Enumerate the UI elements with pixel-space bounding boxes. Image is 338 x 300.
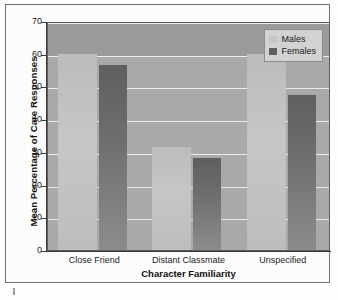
legend: Males Females [264, 29, 323, 62]
x-tick-label-distant-classmate: Distant Classmate [141, 255, 235, 269]
bar-males-unspecified [247, 54, 286, 250]
y-axis-line [46, 22, 47, 252]
y-tick-label-0: 0 [0, 246, 42, 255]
x-axis-title: Character Familiarity [47, 268, 330, 279]
bar-males-distant-classmate [152, 147, 191, 250]
legend-item-males: Males [269, 34, 316, 45]
x-tick-label-close-friend: Close Friend [47, 255, 141, 269]
bar-males-close-friend [58, 54, 97, 250]
figure-canvas: Mean Percentage of Care Responses 706050… [0, 0, 338, 300]
x-tick-label-unspecified: Unspecified [236, 255, 330, 269]
y-tick-label-30: 30 [0, 148, 42, 157]
bar-females-distant-classmate [193, 158, 221, 250]
legend-item-females: Females [269, 46, 316, 57]
bar-females-unspecified [288, 95, 316, 250]
y-tick-label-40: 40 [0, 115, 42, 124]
bar-females-close-friend [99, 65, 127, 250]
y-tick-label-70: 70 [0, 17, 42, 26]
x-axis-line [46, 251, 331, 252]
y-tick-label-60: 60 [0, 50, 42, 59]
x-axis-tick-labels: Close FriendDistant ClassmateUnspecified [47, 255, 330, 269]
legend-label-males: Males [281, 35, 305, 44]
y-tick-label-20: 20 [0, 181, 42, 190]
y-axis-tick-labels: 706050403020100 [0, 0, 42, 300]
legend-label-females: Females [281, 47, 316, 56]
plot-area: Males Females [47, 22, 330, 251]
males-swatch-icon [269, 36, 277, 43]
y-tick-label-10: 10 [0, 213, 42, 222]
gridline-70 [48, 23, 329, 24]
females-swatch-icon [269, 48, 277, 55]
y-tick-label-50: 50 [0, 82, 42, 91]
